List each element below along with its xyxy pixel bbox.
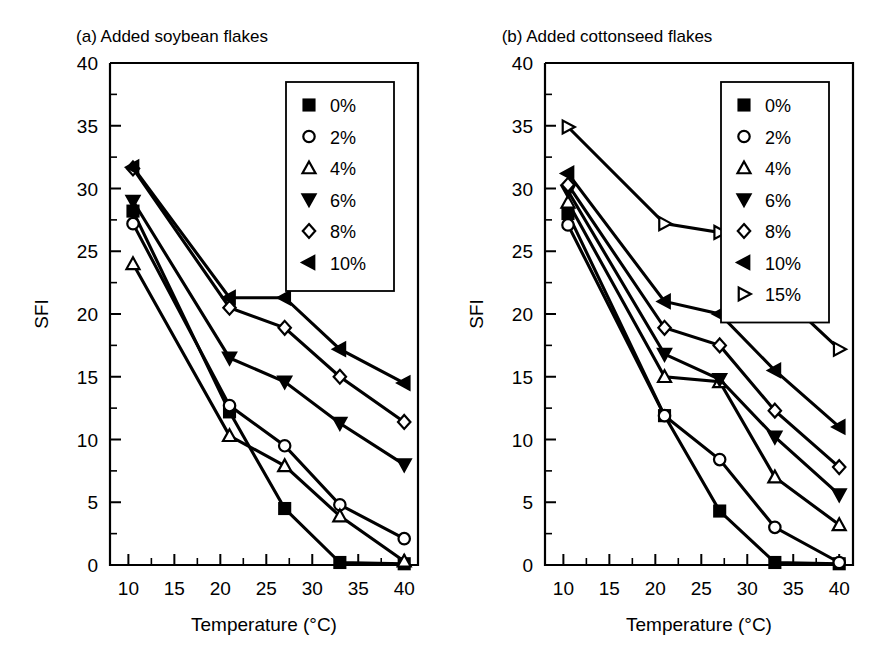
x-tick-label: 30 — [302, 578, 323, 599]
x-tick-label: 40 — [829, 578, 850, 599]
figure-root: (a) Added soybean flakes0510152025303540… — [0, 0, 869, 648]
x-axis-label: Temperature (°C) — [191, 614, 337, 635]
y-tick-label: 30 — [512, 179, 533, 200]
legend-label: 0% — [765, 96, 791, 116]
legend-label: 4% — [765, 159, 791, 179]
y-tick-label: 5 — [87, 492, 98, 513]
y-tick-label: 5 — [522, 492, 533, 513]
y-tick-label: 30 — [77, 179, 98, 200]
x-tick-label: 35 — [348, 578, 369, 599]
y-tick-label: 0 — [87, 555, 98, 576]
plot-area-b: 051015202530354010152025303540Temperatur… — [466, 53, 853, 635]
x-axis-label: Temperature (°C) — [626, 614, 772, 635]
legend-label: 15% — [765, 285, 801, 305]
y-tick-label: 20 — [512, 304, 533, 325]
x-tick-label: 10 — [553, 578, 574, 599]
y-tick-label: 40 — [512, 53, 533, 74]
legend-label: 8% — [765, 222, 791, 242]
x-tick-label: 25 — [691, 578, 712, 599]
y-axis-label: SFI — [31, 299, 52, 329]
legend-label: 2% — [765, 128, 791, 148]
chart-panel-a: (a) Added soybean flakes0510152025303540… — [0, 0, 434, 648]
y-tick-label: 25 — [512, 241, 533, 262]
legend-label: 10% — [330, 254, 366, 274]
x-tick-label: 20 — [210, 578, 231, 599]
y-tick-label: 25 — [77, 241, 98, 262]
x-tick-label: 10 — [118, 578, 139, 599]
y-tick-label: 15 — [512, 367, 533, 388]
legend-b: 0%2%4%6%8%10%15% — [721, 82, 829, 323]
y-tick-label: 10 — [512, 430, 533, 451]
plot-area-a: 051015202530354010152025303540Temperatur… — [31, 53, 418, 635]
panel-title-b: (b) Added cottonseed flakes — [502, 27, 713, 46]
x-tick-label: 40 — [394, 578, 415, 599]
legend-label: 8% — [330, 222, 356, 242]
y-tick-label: 40 — [77, 53, 98, 74]
legend-a: 0%2%4%6%8%10% — [286, 82, 394, 291]
panel-title-a: (a) Added soybean flakes — [76, 27, 268, 46]
x-tick-label: 15 — [599, 578, 620, 599]
y-tick-label: 35 — [512, 116, 533, 137]
x-tick-label: 20 — [645, 578, 666, 599]
y-tick-label: 20 — [77, 304, 98, 325]
chart-svg-b: (b) Added cottonseed flakes0510152025303… — [435, 0, 869, 648]
x-tick-label: 30 — [737, 578, 758, 599]
legend-label: 6% — [765, 191, 791, 211]
legend-label: 4% — [330, 159, 356, 179]
chart-panel-b: (b) Added cottonseed flakes0510152025303… — [435, 0, 869, 648]
x-tick-label: 35 — [783, 578, 804, 599]
y-tick-label: 35 — [77, 116, 98, 137]
legend-label: 2% — [330, 128, 356, 148]
x-tick-label: 15 — [164, 578, 185, 599]
x-tick-label: 25 — [256, 578, 277, 599]
legend-label: 0% — [330, 96, 356, 116]
y-axis-label: SFI — [466, 299, 487, 329]
y-tick-label: 15 — [77, 367, 98, 388]
legend-label: 10% — [765, 254, 801, 274]
y-tick-label: 0 — [522, 555, 533, 576]
y-tick-label: 10 — [77, 430, 98, 451]
chart-svg-a: (a) Added soybean flakes0510152025303540… — [0, 0, 434, 648]
legend-label: 6% — [330, 191, 356, 211]
